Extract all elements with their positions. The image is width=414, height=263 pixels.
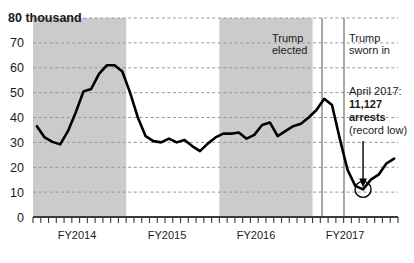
line-chart: 80 thousand 70 60 50 40 30 20 10 0 FY201 [0,0,414,263]
y-tick-20: 20 [10,161,24,175]
y-tick-0: 0 [17,211,24,225]
trump-elected-label-line2: elected [272,44,307,56]
record-low-line2: 11,127 [349,98,382,110]
y-tick-50: 50 [10,86,24,100]
trump-sworn-in-label-line2: sworn in [349,44,390,56]
y-tick-10: 10 [10,186,24,200]
y-tick-40: 40 [10,111,24,125]
record-low-annotation: April 2017: 11,127 arrests (record low) [349,85,407,136]
trump-sworn-in-annotation: Trump sworn in [349,32,390,56]
y-axis-unit-label: 80 thousand [8,11,82,25]
record-low-line4: (record low) [349,124,407,136]
x-tick-fy2014: FY2014 [58,229,97,241]
x-axis-labels: FY2014 FY2015 FY2016 FY2017 [58,229,365,241]
record-low-line3: arrests [349,111,386,123]
x-tick-fy2017: FY2017 [326,229,365,241]
trump-sworn-in-label-line1: Trump [349,32,380,44]
y-tick-70: 70 [10,36,24,50]
record-low-arrow [359,141,367,187]
x-tick-fy2016: FY2016 [237,229,276,241]
y-tick-30: 30 [10,136,24,150]
x-tick-fy2015: FY2015 [148,229,187,241]
trump-elected-annotation: Trump elected [272,32,307,56]
record-low-line1: April 2017: [349,85,402,97]
y-tick-60: 60 [10,61,24,75]
chart-container: 80 thousand 70 60 50 40 30 20 10 0 FY201 [0,0,414,263]
trump-elected-label-line1: Trump [272,32,303,44]
